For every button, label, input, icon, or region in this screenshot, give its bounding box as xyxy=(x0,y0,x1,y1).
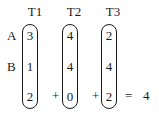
cell-t1-sum: 2 xyxy=(22,89,38,105)
cell-t2-sum: 0 xyxy=(62,89,78,105)
cell-t1-a: 3 xyxy=(22,28,38,44)
column-t2: 4 4 0 xyxy=(62,24,78,109)
cell-t2-a: 4 xyxy=(62,28,78,44)
cell-t3-a: 2 xyxy=(101,28,117,44)
cell-t2-b: 4 xyxy=(62,59,78,75)
column-t3: 2 4 2 xyxy=(101,24,117,109)
row-label-b: B xyxy=(7,59,16,75)
plus-operator-2: + xyxy=(92,88,99,104)
cell-t1-b: 1 xyxy=(22,59,38,75)
header-t1: T1 xyxy=(20,4,50,20)
column-t1: 3 1 2 xyxy=(22,24,38,109)
cell-t3-b: 4 xyxy=(101,59,117,75)
plus-operator-1: + xyxy=(52,88,59,104)
equals-sign: = xyxy=(125,88,132,104)
cell-t3-sum: 2 xyxy=(101,89,117,105)
result-value: 4 xyxy=(143,88,150,104)
header-t2: T2 xyxy=(59,4,89,20)
header-t3: T3 xyxy=(98,4,128,20)
row-label-a: A xyxy=(7,28,16,44)
